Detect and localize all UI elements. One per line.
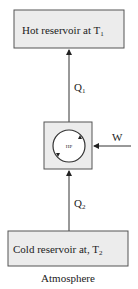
heat-pump-diagram: Hot reservoir at T1 Q1 HP W Q2 Cold rese… (0, 0, 138, 289)
hot-reservoir-label: Hot reservoir at T1 (22, 24, 104, 38)
atmosphere-caption: Atmosphere (41, 272, 95, 284)
hot-reservoir: Hot reservoir at T1 (14, 10, 124, 48)
cold-reservoir-label: Cold reservoir at, T2 (13, 243, 103, 257)
cold-reservoir: Cold reservoir at, T2 (8, 231, 128, 266)
q2-label: Q2 (74, 197, 86, 211)
work-label: W (112, 131, 123, 143)
heat-pump: HP (44, 122, 92, 169)
heat-pump-label: HP (66, 144, 73, 149)
q1-label: Q1 (74, 81, 86, 95)
